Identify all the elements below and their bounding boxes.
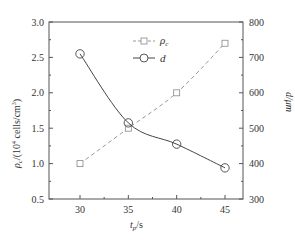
plot-frame bbox=[49, 22, 243, 199]
data-point-rho-c bbox=[174, 90, 180, 96]
series-d bbox=[76, 50, 229, 172]
legend-item-rho-c: ρc bbox=[133, 34, 169, 48]
x-tick-label: 30 bbox=[75, 204, 85, 215]
left-y-axis: 0.51.01.52.02.53.0 bbox=[32, 17, 54, 205]
x-axis: 30354045 bbox=[75, 195, 230, 215]
x-tick-label: 35 bbox=[123, 204, 133, 215]
legend: ρc d bbox=[133, 34, 169, 64]
y-tick-label-right: 600 bbox=[249, 87, 264, 98]
x-tick-label: 40 bbox=[172, 204, 182, 215]
left-y-axis-label: ρc/(104 cells/cm3) bbox=[11, 99, 24, 169]
y-tick-label-right: 400 bbox=[249, 158, 264, 169]
legend-item-d: d bbox=[133, 52, 166, 64]
y-tick-label-left: 2.5 bbox=[32, 52, 45, 63]
x-axis-label: tp/s bbox=[130, 219, 143, 232]
y-tick-label-left: 2.0 bbox=[32, 87, 45, 98]
y-tick-label-right: 500 bbox=[249, 123, 264, 134]
y-tick-label-right: 700 bbox=[249, 52, 264, 63]
series-rho-c bbox=[77, 40, 228, 166]
y-tick-label-right: 300 bbox=[249, 194, 264, 205]
data-point-rho-c bbox=[77, 161, 83, 167]
y-tick-label-left: 1.5 bbox=[32, 123, 45, 134]
svg-text:d: d bbox=[160, 52, 166, 64]
y-tick-label-right: 800 bbox=[249, 17, 264, 28]
svg-text:ρc: ρc bbox=[159, 34, 169, 48]
square-marker-icon bbox=[141, 38, 147, 44]
right-y-axis-label: d/μm bbox=[284, 92, 295, 112]
data-point-rho-c bbox=[222, 40, 228, 46]
y-tick-label-left: 1.0 bbox=[32, 158, 45, 169]
y-tick-label-left: 3.0 bbox=[32, 17, 45, 28]
circle-marker-icon bbox=[140, 54, 148, 62]
x-tick-label: 45 bbox=[220, 204, 230, 215]
y-tick-label-left: 0.5 bbox=[32, 194, 45, 205]
chart: 0.51.01.52.02.53.0 300400500600700800 30… bbox=[0, 0, 295, 244]
